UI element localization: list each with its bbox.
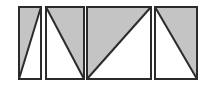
panel-3 (87, 7, 151, 79)
panel-4 (155, 7, 197, 79)
panel-1 (19, 7, 41, 79)
triangle-panels-diagram (0, 0, 208, 88)
panel-2 (46, 7, 84, 79)
